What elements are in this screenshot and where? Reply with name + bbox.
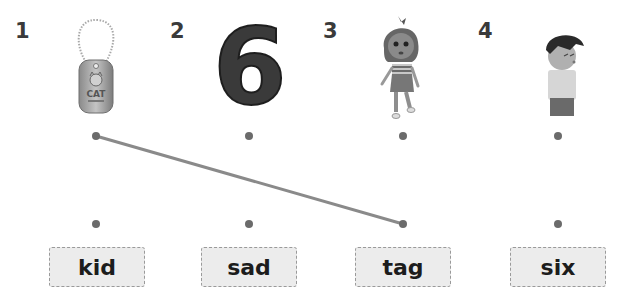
item-number-3: 3	[323, 19, 338, 43]
word-dot-tag[interactable]	[399, 220, 407, 228]
svg-text:CAT: CAT	[86, 89, 106, 99]
word-dot-kid[interactable]	[92, 220, 100, 228]
svg-text:6: 6	[213, 20, 286, 112]
item-number-1: 1	[15, 19, 30, 43]
picture-dot-1[interactable]	[92, 132, 100, 140]
picture-dot-2[interactable]	[245, 132, 253, 140]
word-box-six[interactable]: six	[510, 247, 606, 287]
girl-icon	[372, 12, 430, 124]
word-box-kid[interactable]: kid	[49, 247, 145, 287]
number-six-icon: 6	[212, 20, 286, 112]
connection-line-1-to-tag	[96, 136, 403, 224]
picture-dot-4[interactable]	[554, 132, 562, 140]
word-box-sad[interactable]: sad	[201, 247, 297, 287]
girl-picture	[372, 12, 430, 124]
picture-dot-3[interactable]	[399, 132, 407, 140]
word-dot-sad[interactable]	[245, 220, 253, 228]
number-six-picture: 6	[212, 20, 286, 112]
word-dot-six[interactable]	[554, 220, 562, 228]
sad-boy-icon	[540, 28, 590, 118]
sad-boy-picture	[540, 28, 590, 118]
word-box-tag[interactable]: tag	[355, 247, 451, 287]
dog-tag-icon: CAT	[66, 14, 126, 114]
cat-dog-tag-picture: CAT	[66, 14, 126, 114]
item-number-2: 2	[170, 19, 185, 43]
item-number-4: 4	[478, 19, 493, 43]
